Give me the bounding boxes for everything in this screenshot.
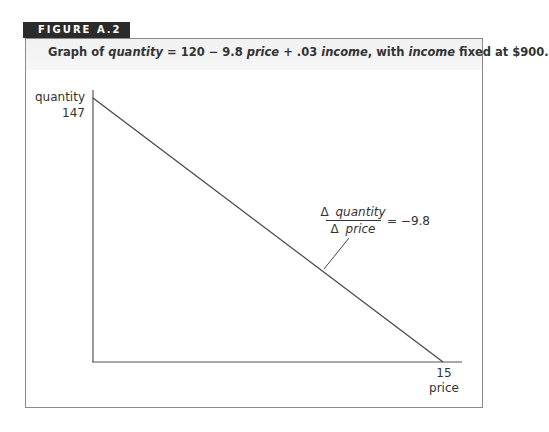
annotation-leader-line xyxy=(324,238,349,269)
quantity-line xyxy=(93,98,443,362)
slope-value: = −9.8 xyxy=(387,214,430,228)
svg-text:Δ quantity: Δ quantity xyxy=(320,205,386,219)
slope-annotation: Δ quantity Δ price = −9.8 xyxy=(320,205,430,236)
y-axis-label: quantity xyxy=(35,90,85,104)
x-tick-label: 15 xyxy=(436,366,451,380)
denominator-var: price xyxy=(345,222,376,236)
svg-text:Δ price: Δ price xyxy=(331,222,376,236)
numerator-var: quantity xyxy=(336,205,387,219)
delta-symbol: Δ xyxy=(320,205,329,219)
x-axis-label: price xyxy=(429,381,459,395)
delta-symbol: Δ xyxy=(331,222,340,236)
y-tick-label: 147 xyxy=(62,106,85,120)
